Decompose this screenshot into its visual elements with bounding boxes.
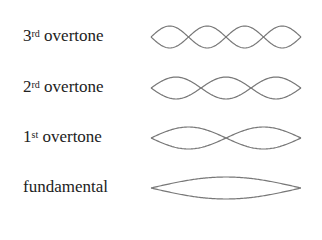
wave-2-loops bbox=[148, 123, 304, 153]
label-2nd-overtone: 2rd overtone bbox=[23, 77, 104, 97]
label-3rd-overtone: 3rd overtone bbox=[23, 26, 104, 46]
row-3rd-overtone: 3rd overtone bbox=[0, 22, 322, 62]
wave-3-loops bbox=[148, 73, 304, 103]
label-suffix: rd bbox=[32, 28, 40, 39]
label-text: fundamental bbox=[23, 177, 108, 196]
wave-1-loop bbox=[148, 173, 304, 203]
row-fundamental: fundamental bbox=[0, 173, 322, 213]
label-suffix: rd bbox=[32, 79, 40, 90]
label-fundamental: fundamental bbox=[23, 177, 108, 197]
label-number: 3 bbox=[23, 26, 32, 45]
label-text: overtone bbox=[40, 26, 104, 45]
label-suffix: st bbox=[32, 129, 39, 140]
wave-4-loops bbox=[148, 22, 304, 52]
label-text: overtone bbox=[40, 77, 104, 96]
row-1st-overtone: 1st overtone bbox=[0, 123, 322, 163]
row-2nd-overtone: 2rd overtone bbox=[0, 73, 322, 113]
label-1st-overtone: 1st overtone bbox=[23, 127, 102, 147]
label-text: overtone bbox=[38, 127, 102, 146]
label-number: 1 bbox=[23, 127, 32, 146]
label-number: 2 bbox=[23, 77, 32, 96]
